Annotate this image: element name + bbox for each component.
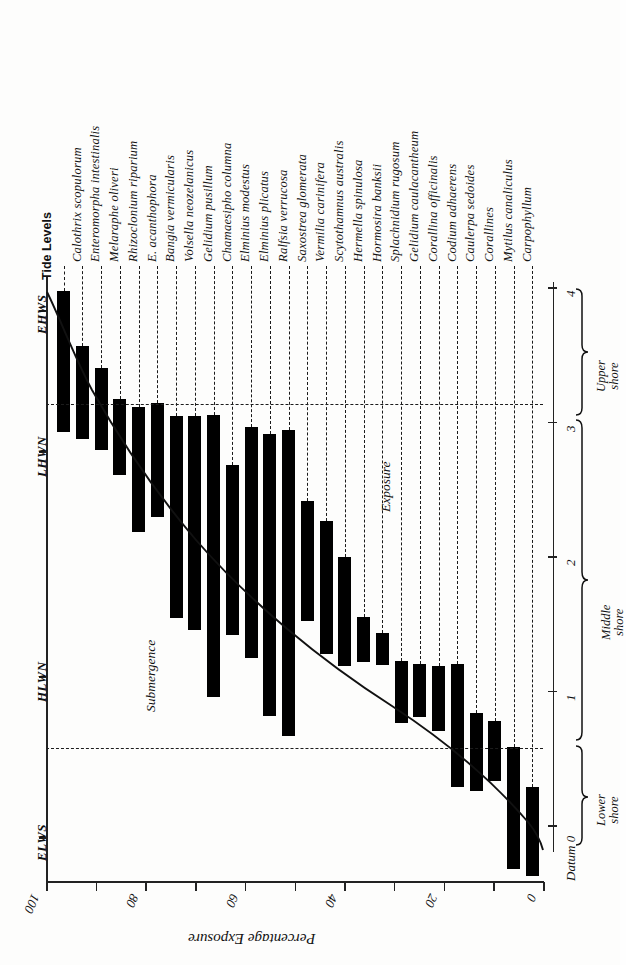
- shore-zone-lower-line2: shore: [608, 794, 621, 826]
- shore-zone-label-upper: Upper shore: [595, 360, 621, 392]
- shore-zone-label-lower: Lower shore: [595, 794, 621, 826]
- shore-zone-label-middle: Middle shore: [600, 605, 626, 640]
- shore-zone-middle-line1: Middle shore: [600, 605, 626, 640]
- shore-zone-upper-line2: shore: [608, 360, 621, 392]
